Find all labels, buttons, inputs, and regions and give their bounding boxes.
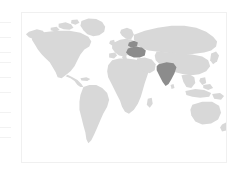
region-indonesia (203, 84, 213, 90)
region-iberia (109, 52, 117, 58)
region-arctic-islands (71, 19, 79, 24)
region-south-america (79, 85, 109, 143)
region-madagascar (147, 98, 153, 108)
axis-tick (0, 127, 11, 128)
map-plot-frame (21, 12, 227, 163)
axis-tick-strip (0, 0, 12, 175)
region-japan (210, 51, 219, 64)
world-map-svg (22, 13, 226, 162)
region-central-america (66, 75, 84, 87)
region-highlight-india (157, 62, 177, 86)
region-north-asia (134, 26, 217, 55)
region-indonesia (185, 89, 211, 98)
region-caribbean (80, 77, 90, 81)
axis-tick (0, 92, 11, 93)
region-north-america (32, 31, 91, 78)
region-new-guinea (212, 93, 224, 100)
axis-tick (0, 62, 11, 63)
region-greenland (80, 18, 105, 36)
region-new-zealand (220, 123, 226, 132)
region-scandinavia (120, 28, 134, 40)
axis-tick (0, 77, 11, 78)
figure-root (0, 0, 237, 175)
region-philippines (199, 77, 206, 85)
axis-tick (0, 37, 11, 38)
axis-tick (0, 22, 11, 23)
axis-tick (0, 137, 11, 138)
region-australia (190, 102, 221, 125)
region-sri-lanka (171, 84, 175, 89)
axis-tick (0, 52, 11, 53)
axis-tick (0, 112, 11, 113)
region-arctic-islands (59, 22, 74, 29)
region-southeast-asia (181, 74, 195, 88)
